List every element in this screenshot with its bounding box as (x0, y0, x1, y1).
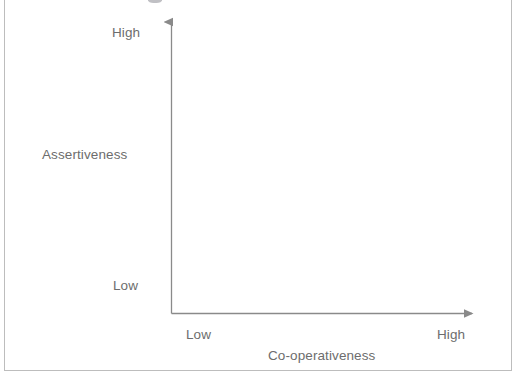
y-axis-low-label: Low (113, 279, 138, 293)
x-axis-low-label: Low (186, 328, 211, 342)
x-axis-title: Co-operativeness (268, 349, 375, 363)
axes-diagram-figure: High Assertiveness Low Low High Co-opera… (0, 0, 516, 377)
y-axis-high-label: High (112, 26, 140, 40)
x-axis-high-label: High (437, 328, 465, 342)
axes-graphic (0, 0, 516, 377)
y-axis-title: Assertiveness (42, 148, 127, 162)
